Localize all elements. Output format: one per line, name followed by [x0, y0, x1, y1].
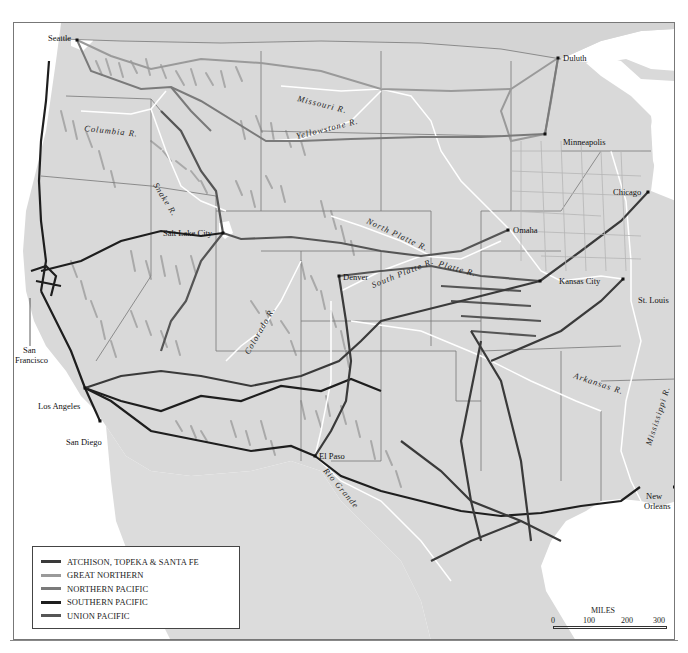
legend-label: NORTHERN PACIFIC	[67, 584, 148, 594]
legend-label: GREAT NORTHERN	[67, 570, 144, 580]
legend-swatch-northern-pacific	[41, 587, 61, 590]
legend-label: UNION PACIFIC	[67, 611, 130, 621]
city-label-los-angeles: Los Angeles	[38, 401, 80, 411]
scale-title: MILES	[591, 606, 615, 615]
city-label-new-orleans-line2: Orleans	[644, 501, 670, 511]
legend-swatch-atsf	[41, 560, 61, 563]
legend-label: ATCHISON, TOPEKA & SANTA FE	[67, 557, 199, 567]
city-label-kansas-city: Kansas City	[559, 276, 601, 286]
legend-swatch-great-northern	[41, 574, 61, 577]
scale-tick-0: 0	[551, 616, 555, 625]
legend-swatch-southern-pacific	[41, 601, 61, 604]
legend-item-northern-pacific: NORTHERN PACIFIC	[41, 582, 231, 596]
city-label-st-louis: St. Louis	[638, 295, 669, 305]
legend-item-great-northern: GREAT NORTHERN	[41, 569, 231, 583]
city-label-san-francisco-line1: San	[23, 345, 37, 355]
legend-item-union-pacific: UNION PACIFIC	[41, 609, 231, 623]
city-label-san-diego: San Diego	[66, 437, 102, 447]
bottom-rule	[10, 640, 678, 641]
scale-bar-line	[553, 626, 667, 629]
legend-item-atsf: ATCHISON, TOPEKA & SANTA FE	[41, 555, 231, 569]
city-label-new-orleans-line1: New	[646, 491, 663, 501]
city-label-salt-lake-city: Salt Lake City	[163, 228, 213, 238]
legend: ATCHISON, TOPEKA & SANTA FE GREAT NORTHE…	[32, 546, 240, 629]
city-label-omaha: Omaha	[513, 225, 538, 235]
city-label-seattle: Seattle	[48, 33, 71, 43]
scale-tick-100: 100	[583, 616, 595, 625]
legend-label: SOUTHERN PACIFIC	[67, 597, 148, 607]
scale-tick-300: 300	[653, 616, 665, 625]
legend-swatch-union-pacific	[41, 614, 61, 617]
city-label-san-francisco-line2: Francisco	[15, 355, 48, 365]
city-label-chicago: Chicago	[613, 187, 641, 197]
legend-item-southern-pacific: SOUTHERN PACIFIC	[41, 596, 231, 610]
scale-tick-200: 200	[621, 616, 633, 625]
city-label-denver: Denver	[343, 272, 368, 282]
railroad-map: Seattle Duluth Minneapolis Chicago Salt …	[13, 22, 675, 640]
city-label-duluth: Duluth	[563, 53, 587, 63]
city-label-el-paso: El Paso	[319, 451, 345, 461]
city-label-minneapolis: Minneapolis	[563, 137, 606, 147]
scale-bar: MILES 0 100 200 300	[549, 606, 675, 636]
